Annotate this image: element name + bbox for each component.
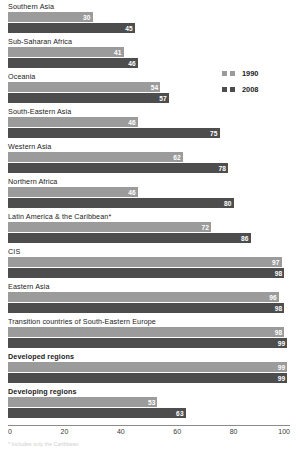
bar-row: 99 xyxy=(0,373,298,383)
legend-swatch-1990-a xyxy=(222,71,227,76)
bar-row: 80 xyxy=(0,198,298,208)
bar-row: 97 xyxy=(0,257,298,267)
x-tick-label: 20 xyxy=(60,428,68,435)
x-tick-label: 40 xyxy=(117,428,125,435)
bar-row: 41 xyxy=(0,47,298,57)
chart-container: Southern Asia3045Sub-Saharan Africa4146O… xyxy=(0,0,298,450)
bar-2008: 63 xyxy=(8,408,186,418)
chart-footnote: * Includes only the Caribbean xyxy=(8,441,294,449)
category-label: Eastern Asia xyxy=(0,282,298,291)
bar-row: 62 xyxy=(0,152,298,162)
bar-value-label: 53 xyxy=(148,399,156,406)
bar-2008: 46 xyxy=(8,58,138,68)
bar-1990: 96 xyxy=(8,292,279,302)
bar-row: 53 xyxy=(0,397,298,407)
bar-value-label: 72 xyxy=(201,224,209,231)
category-label: Latin America & the Caribbean* xyxy=(0,212,298,221)
bar-group: Transition countries of South-Eastern Eu… xyxy=(0,317,298,348)
chart-legend: 1990 2008 xyxy=(222,68,258,100)
legend-item-2008: 2008 xyxy=(222,84,258,95)
legend-label-2008: 2008 xyxy=(242,85,258,94)
bar-row: 98 xyxy=(0,268,298,278)
bar-row: 99 xyxy=(0,362,298,372)
bar-1990: 41 xyxy=(8,47,124,57)
bar-2008: 75 xyxy=(8,128,220,138)
bar-value-label: 46 xyxy=(128,189,136,196)
x-tick-label: 80 xyxy=(230,428,238,435)
category-label: Southern Asia xyxy=(0,2,298,11)
bar-row: 63 xyxy=(0,408,298,418)
legend-swatch-2008-a xyxy=(222,87,227,92)
bar-value-label: 78 xyxy=(218,165,226,172)
bar-2008: 57 xyxy=(8,93,169,103)
bar-group: Northern Africa4680 xyxy=(0,177,298,208)
category-label: Western Asia xyxy=(0,142,298,151)
x-tick-label: 0 xyxy=(8,428,12,435)
bar-2008: 99 xyxy=(8,373,287,383)
bar-row: 30 xyxy=(0,12,298,22)
category-label: Developing regions xyxy=(0,387,298,396)
category-label: South-Eastern Asia xyxy=(0,107,298,116)
bar-value-label: 63 xyxy=(176,410,184,417)
bar-value-label: 99 xyxy=(278,375,286,382)
bar-row: 86 xyxy=(0,233,298,243)
bar-group: South-Eastern Asia4675 xyxy=(0,107,298,138)
bar-plot-area: Southern Asia3045Sub-Saharan Africa4146O… xyxy=(0,0,298,424)
bar-2008: 98 xyxy=(8,303,284,313)
bar-2008: 45 xyxy=(8,23,135,33)
legend-swatch-2008-b xyxy=(230,87,235,92)
bar-value-label: 97 xyxy=(272,259,280,266)
bar-value-label: 96 xyxy=(269,294,277,301)
bar-value-label: 98 xyxy=(275,305,283,312)
bar-value-label: 98 xyxy=(275,270,283,277)
bar-group: Eastern Asia9698 xyxy=(0,282,298,313)
bar-value-label: 99 xyxy=(278,340,286,347)
bar-value-label: 30 xyxy=(83,14,91,21)
legend-swatch-1990-b xyxy=(230,71,235,76)
bar-value-label: 62 xyxy=(173,154,181,161)
bar-value-label: 86 xyxy=(241,235,249,242)
bar-value-label: 45 xyxy=(125,25,133,32)
bar-group: CIS9798 xyxy=(0,247,298,278)
category-label: Developed regions xyxy=(0,352,298,361)
bar-1990: 54 xyxy=(8,82,160,92)
bar-value-label: 99 xyxy=(278,364,286,371)
bar-value-label: 98 xyxy=(275,329,283,336)
x-tick-label: 60 xyxy=(173,428,181,435)
bar-row: 46 xyxy=(0,58,298,68)
bar-group: Latin America & the Caribbean*7286 xyxy=(0,212,298,243)
bar-1990: 30 xyxy=(8,12,93,22)
legend-item-1990: 1990 xyxy=(222,68,258,79)
bar-1990: 53 xyxy=(8,397,157,407)
bar-value-label: 75 xyxy=(210,130,218,137)
bar-1990: 46 xyxy=(8,117,138,127)
bar-1990: 72 xyxy=(8,222,211,232)
bar-row: 75 xyxy=(0,128,298,138)
bar-value-label: 54 xyxy=(151,84,159,91)
bar-row: 46 xyxy=(0,117,298,127)
bar-row: 45 xyxy=(0,23,298,33)
category-label: CIS xyxy=(0,247,298,256)
bar-value-label: 57 xyxy=(159,95,167,102)
bar-row: 99 xyxy=(0,338,298,348)
category-label: Sub-Saharan Africa xyxy=(0,37,298,46)
bar-2008: 99 xyxy=(8,338,287,348)
x-axis-line xyxy=(8,425,290,426)
bar-1990: 97 xyxy=(8,257,282,267)
bar-1990: 46 xyxy=(8,187,138,197)
bar-group: Western Asia6278 xyxy=(0,142,298,173)
legend-label-1990: 1990 xyxy=(242,69,258,78)
x-tick-label: 100 xyxy=(278,428,290,435)
bar-value-label: 41 xyxy=(114,49,122,56)
x-axis-ticks: 020406080100 xyxy=(0,428,298,440)
bar-1990: 99 xyxy=(8,362,287,372)
bar-group: Developed regions9999 xyxy=(0,352,298,383)
bar-row: 98 xyxy=(0,303,298,313)
bar-group: Southern Asia3045 xyxy=(0,2,298,33)
bar-row: 98 xyxy=(0,327,298,337)
bar-2008: 98 xyxy=(8,268,284,278)
bar-2008: 80 xyxy=(8,198,234,208)
bar-2008: 86 xyxy=(8,233,251,243)
bar-value-label: 46 xyxy=(128,119,136,126)
bar-value-label: 80 xyxy=(224,200,232,207)
